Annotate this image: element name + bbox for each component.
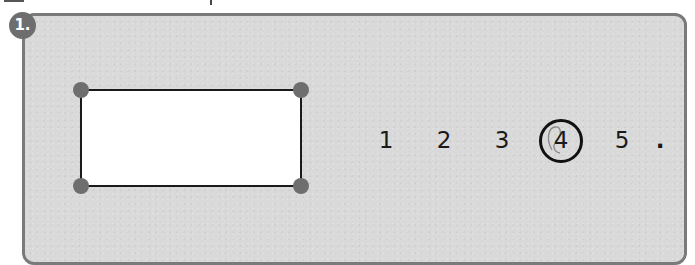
question-panel [22, 13, 687, 265]
option-5[interactable]: 5 [607, 124, 637, 156]
trailing-period: . [645, 124, 675, 156]
question-number-badge: 1. [9, 12, 36, 39]
option-3[interactable]: 3 [487, 124, 517, 156]
clipped-mark-above [210, 0, 212, 5]
option-2[interactable]: 2 [429, 124, 459, 156]
clipped-content-above [4, 0, 24, 2]
option-1[interactable]: 1 [371, 124, 401, 156]
option-4-selected[interactable]: 4 [546, 124, 576, 156]
